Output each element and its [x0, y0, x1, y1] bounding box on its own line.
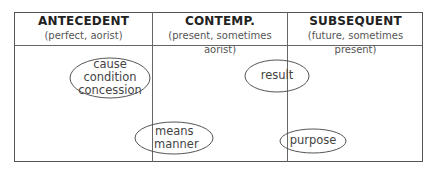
- label-result: result: [245, 69, 309, 82]
- label-means-manner: means manner: [137, 125, 205, 151]
- label-line: manner: [137, 138, 205, 151]
- label-line: result: [245, 69, 309, 82]
- label-line: purpose: [280, 134, 346, 147]
- label-line: concession: [70, 84, 150, 97]
- label-cause-condition-concession: cause condition concession: [70, 58, 150, 97]
- label-purpose: purpose: [280, 134, 346, 147]
- ellipse-layer: [0, 0, 437, 172]
